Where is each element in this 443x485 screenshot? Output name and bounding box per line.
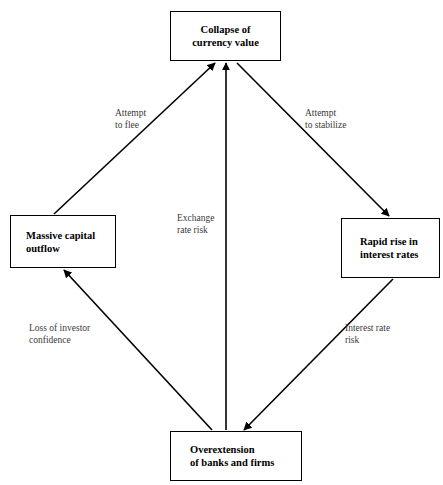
- node-collapse-of-currency-value[interactable]: Collapse of currency value: [170, 11, 281, 61]
- node-label-collapse-of-currency-value: Collapse of currency value: [192, 23, 259, 49]
- node-label-massive-capital-outflow: Massive capital outflow: [11, 229, 95, 255]
- node-massive-capital-outflow[interactable]: Massive capital outflow: [10, 215, 116, 268]
- edge-label-interest-rate-risk: Interest rate risk: [345, 322, 390, 346]
- node-overextension-of-banks-and-firms[interactable]: Overextension of banks and firms: [170, 431, 302, 481]
- edge-interest-rates-to-overextension: [244, 279, 393, 430]
- node-rapid-rise-in-interest-rates[interactable]: Rapid rise in interest rates: [341, 218, 440, 278]
- node-label-overextension-of-banks-and-firms: Overextension of banks and firms: [171, 443, 274, 469]
- edge-label-loss-of-investor-confidence: Loss of investor confidence: [29, 322, 90, 346]
- edge-label-exchange-rate-risk: Exchange rate risk: [177, 212, 214, 236]
- edge-overextension-to-outflow: [64, 270, 212, 430]
- edge-label-attempt-to-flee: Attempt to flee: [115, 107, 146, 131]
- edge-collapse-to-interest-rates: [237, 63, 389, 216]
- node-label-rapid-rise-in-interest-rates: Rapid rise in interest rates: [342, 235, 418, 261]
- edge-label-attempt-to-stabilize: Attempt to stabilize: [305, 107, 346, 131]
- edge-outflow-to-collapse: [54, 63, 215, 214]
